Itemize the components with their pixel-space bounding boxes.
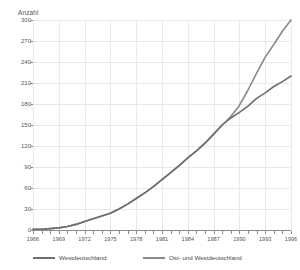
x-axis-tick-label: 1993 [259, 236, 271, 242]
x-axis-tick-mark [196, 231, 197, 234]
x-axis-tick-mark [33, 231, 34, 234]
x-axis-tick-mark [188, 231, 189, 234]
x-axis-tick-mark [231, 231, 232, 234]
x-axis-tick-mark [136, 231, 137, 234]
chart-container: Anzahl 0306090120150180210240270300 1966… [0, 0, 300, 270]
x-axis-tick-mark [50, 231, 51, 234]
x-axis-tick-label: 1975 [104, 236, 116, 242]
x-axis-tick-mark [171, 231, 172, 234]
x-axis-tick-mark [162, 231, 163, 234]
x-axis-tick-label: 1984 [182, 236, 194, 242]
x-axis-tick-label: 1996 [285, 236, 297, 242]
y-axis-tick-labels: 0306090120150180210240270300 [0, 0, 31, 270]
x-axis-tick-mark [128, 231, 129, 234]
x-axis-tick-mark [59, 231, 60, 234]
x-axis-tick-mark [76, 231, 77, 234]
x-axis-tick-mark [42, 231, 43, 234]
x-axis-tick-mark [67, 231, 68, 234]
x-axis-tick-mark [102, 231, 103, 234]
x-axis-tick-mark [179, 231, 180, 234]
series-lines [33, 20, 291, 230]
x-axis-tick-mark [93, 231, 94, 234]
x-axis-tick-mark [110, 231, 111, 234]
x-axis-tick-mark [257, 231, 258, 234]
x-axis-tick-label: 1978 [130, 236, 142, 242]
legend-color-swatch [33, 257, 55, 259]
x-axis-tick-mark [274, 231, 275, 234]
gridline-vertical [291, 20, 292, 230]
x-axis-tick-label: 1990 [233, 236, 245, 242]
legend-label: Westdeutschland [59, 254, 106, 262]
x-axis-tick-mark [145, 231, 146, 234]
x-axis-tick-label: 1966 [27, 236, 39, 242]
x-axis-tick-mark [282, 231, 283, 234]
x-axis-tick-mark [214, 231, 215, 234]
x-axis-tick-mark [205, 231, 206, 234]
chart-legend: WestdeutschlandOst- und Westdeutschland [0, 252, 300, 264]
legend-item[interactable]: Ost- und Westdeutschland [143, 252, 242, 264]
plot-area [33, 20, 291, 230]
x-axis-tick-label: 1969 [53, 236, 65, 242]
x-axis-tick-mark [291, 231, 292, 234]
series-line [33, 76, 291, 229]
legend-label: Ost- und Westdeutschland [169, 254, 242, 262]
x-axis-tick-label: 1981 [156, 236, 168, 242]
x-axis-tick-label: 1987 [207, 236, 219, 242]
legend-color-swatch [143, 257, 165, 259]
x-axis-tick-mark [153, 231, 154, 234]
x-axis-tick-mark [265, 231, 266, 234]
series-line [33, 20, 291, 229]
x-axis-tick-mark [222, 231, 223, 234]
chart-title [0, 0, 300, 8]
legend-item[interactable]: Westdeutschland [33, 252, 106, 264]
x-axis-tick-mark [248, 231, 249, 234]
x-axis-tick-mark [119, 231, 120, 234]
x-axis-tick-mark [239, 231, 240, 234]
x-axis-tick-mark [85, 231, 86, 234]
x-axis-tick-label: 1972 [78, 236, 90, 242]
